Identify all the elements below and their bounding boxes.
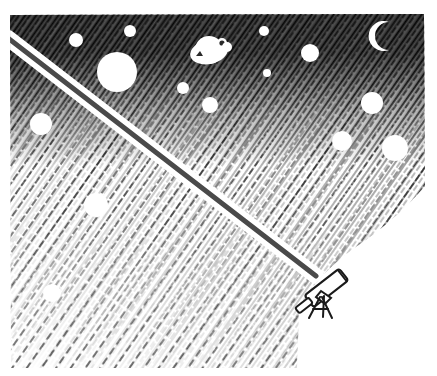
star bbox=[222, 42, 232, 52]
star bbox=[263, 69, 271, 77]
illustration-canvas bbox=[0, 0, 437, 376]
star bbox=[84, 193, 108, 217]
star bbox=[177, 82, 189, 94]
hatched-sky-field bbox=[0, 0, 437, 376]
star bbox=[43, 284, 61, 302]
star bbox=[202, 97, 218, 113]
star bbox=[97, 52, 137, 92]
night-sky-telescope-drawing bbox=[0, 0, 437, 376]
star bbox=[382, 135, 408, 161]
star bbox=[301, 44, 319, 62]
star bbox=[124, 25, 136, 37]
star bbox=[361, 92, 383, 114]
star bbox=[69, 33, 83, 47]
star bbox=[30, 113, 52, 135]
star bbox=[259, 26, 269, 36]
star bbox=[332, 131, 352, 151]
